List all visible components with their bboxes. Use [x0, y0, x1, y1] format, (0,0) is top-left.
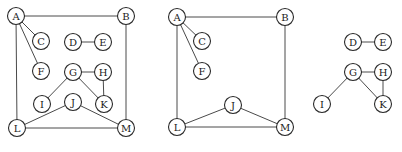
full-graph-node-h: H [95, 64, 112, 81]
component-2-node-d: D [345, 34, 362, 51]
node-label: H [99, 67, 108, 78]
node-label: C [37, 36, 45, 47]
node-label: L [174, 122, 181, 133]
component-1-node-f: F [194, 63, 211, 80]
node-label: J [70, 97, 75, 108]
full-graph-node-g: G [65, 64, 82, 81]
node-label: M [280, 122, 290, 133]
node-label: F [38, 66, 45, 77]
component-2-node-h: H [375, 64, 392, 81]
node-label: I [40, 99, 44, 110]
full-graph-node-e: E [95, 34, 112, 51]
component-1-node-j: J [225, 97, 242, 114]
full-graph-node-f: F [33, 63, 50, 80]
node-label: J [230, 100, 235, 111]
node-label: H [379, 67, 388, 78]
node-label: A [172, 12, 181, 23]
node-label: D [69, 37, 77, 48]
full-graph-node-l: L [9, 120, 26, 137]
full-graph-node-a: A [8, 8, 25, 25]
component-2-node-g: G [345, 64, 362, 81]
full-graph-node-m: M [118, 120, 135, 137]
node-label: L [14, 123, 21, 134]
node-label: K [379, 99, 387, 110]
graph-diagram: ABCDEFGHIJKLMABCFJLMDEGHIK [0, 0, 402, 152]
component-1-node-l: L [169, 119, 186, 136]
node-label: K [100, 99, 108, 110]
node-label: M [121, 123, 131, 134]
node-label: B [122, 11, 129, 22]
node-label: B [281, 12, 288, 23]
full-graph-node-c: C [33, 33, 50, 50]
node-label: F [199, 66, 206, 77]
component-2-node-k: K [375, 96, 392, 113]
node-label: G [69, 67, 77, 78]
full-graph-node-j: J [65, 94, 82, 111]
node-label: E [379, 37, 386, 48]
full-graph-node-i: I [34, 96, 51, 113]
full-graph-node-b: B [118, 8, 135, 25]
component-1-node-c: C [194, 33, 211, 50]
node-label: I [320, 99, 324, 110]
node-label: C [198, 36, 206, 47]
component-1-node-m: M [277, 119, 294, 136]
component-1-node-a: A [169, 9, 186, 26]
node-label: E [99, 37, 106, 48]
full-graph-node-k: K [96, 96, 113, 113]
node-label: G [349, 67, 357, 78]
full-graph-node-d: D [65, 34, 82, 51]
node-label: A [11, 11, 20, 22]
component-2-node-i: I [314, 96, 331, 113]
full-graph-edge-a-l [16, 16, 17, 128]
component-1-node-b: B [277, 9, 294, 26]
node-label: D [349, 37, 357, 48]
component-2-node-e: E [375, 34, 392, 51]
